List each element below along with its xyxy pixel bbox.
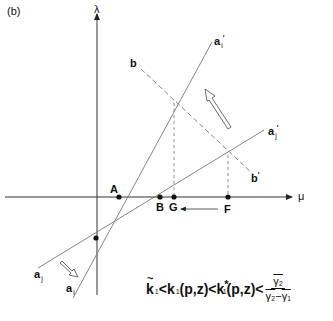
label-point-f: F [224, 204, 231, 215]
line-a-j [38, 130, 264, 268]
label-point-b: B [156, 202, 164, 213]
x-axis-label: μ [298, 191, 304, 202]
label-a-j-prime: aj′ [268, 126, 278, 137]
point-f [225, 194, 230, 199]
hollow-arrow-shift-icon [205, 89, 231, 129]
label-point-a: A [110, 184, 118, 195]
point-b [157, 194, 162, 199]
label-b-prime: b′ [251, 173, 259, 184]
point-a [116, 194, 121, 199]
label-a-i-prime: ai′ [214, 36, 224, 47]
k-tilde: ~k [146, 281, 154, 297]
panel-label: (b) [7, 5, 20, 17]
inequality-formula: ~k1 < k1(p,z) < k*1(p,z) < γ₂ γ₂−γ₁ [146, 275, 291, 302]
fraction: γ₂ γ₂−γ₁ [265, 275, 290, 302]
point-g [171, 194, 176, 199]
label-b: b [130, 58, 137, 69]
diagram-canvas [0, 0, 333, 321]
hollow-arrow-rotate-icon [60, 261, 78, 277]
y-axis-label: λ [94, 4, 100, 15]
line-a-i [73, 42, 212, 298]
label-a-j: aj [34, 269, 43, 280]
line-b-dashed [141, 69, 254, 175]
label-a-i: ai [66, 283, 75, 294]
label-point-g: G [169, 202, 178, 213]
point-origin-intersection [93, 235, 98, 240]
